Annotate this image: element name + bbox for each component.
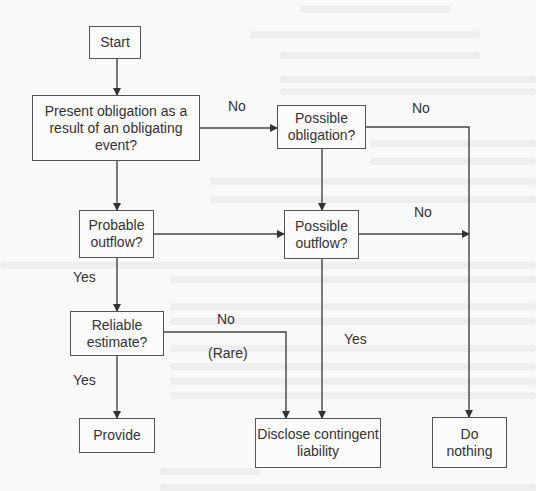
node-possible-obligation: Possible obligation? xyxy=(277,105,366,149)
edge-label-present-no: No xyxy=(228,98,246,114)
node-present-obligation: Present obligation as a result of an obl… xyxy=(32,95,200,161)
edge-label-reliable-rare: (Rare) xyxy=(208,345,248,361)
node-do-nothing: Do nothing xyxy=(432,417,507,468)
edge-label-possible-outflow-yes: Yes xyxy=(344,331,367,347)
node-disclose-contingent-liability: Disclose contingent liability xyxy=(255,418,381,468)
edge-label-reliable-no: No xyxy=(217,311,235,327)
node-reliable-estimate: Reliable estimate? xyxy=(70,311,164,356)
node-possible-outflow: Possible outflow? xyxy=(284,210,359,259)
node-provide: Provide xyxy=(79,418,155,453)
edge-label-reliable-yes: Yes xyxy=(73,372,96,388)
edge-label-possible-obligation-no: No xyxy=(412,100,430,116)
edge-label-probable-yes: Yes xyxy=(73,269,96,285)
node-start: Start xyxy=(89,26,141,59)
edge-label-possible-outflow-no: No xyxy=(414,204,432,220)
node-probable-outflow: Probable outflow? xyxy=(79,210,154,258)
